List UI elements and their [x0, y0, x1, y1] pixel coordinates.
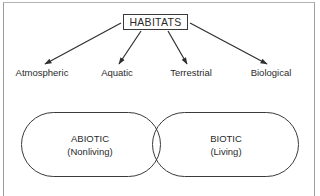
biotic-oval	[153, 113, 299, 177]
arrow-to-aquatic	[119, 31, 141, 64]
arrow-to-biological	[190, 23, 267, 64]
biotic-subtitle: (Living)	[210, 146, 241, 157]
category-biological: Biological	[251, 67, 292, 78]
category-atmospheric: Atmospheric	[16, 67, 69, 78]
habitats-root-node: HABITATS	[124, 15, 188, 30]
abiotic-title: ABIOTIC	[71, 133, 109, 144]
habitats-label: HABITATS	[129, 16, 181, 28]
habitats-diagram: HABITATS Atmospheric Aquatic Terrestrial…	[0, 0, 320, 196]
abiotic-oval	[22, 113, 161, 177]
category-aquatic: Aquatic	[101, 67, 133, 78]
category-terrestrial: Terrestrial	[170, 67, 212, 78]
arrow-to-atmospheric	[45, 23, 121, 64]
biotic-title: BIOTIC	[210, 133, 242, 144]
abiotic-subtitle: (Nonliving)	[67, 146, 112, 157]
arrow-to-terrestrial	[168, 31, 187, 64]
